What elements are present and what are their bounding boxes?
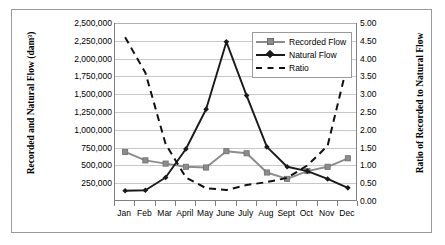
x-axis-tick	[337, 201, 338, 206]
x-axis-tick	[134, 201, 135, 206]
legend-item-ratio[interactable]: Ratio	[256, 61, 348, 74]
y-axis-left-tick-labels: 250,000500,000750,0001,000,0001,250,0001…	[38, 10, 112, 232]
x-axis-tick-label: July	[238, 208, 253, 218]
x-axis-tick-label: May	[197, 208, 213, 218]
y-axis-left-tick-label: 1,250,000	[74, 108, 112, 117]
y-axis-left-tick-label: 1,500,000	[74, 90, 112, 99]
y-axis-left-title: Recorded and Natural Flow (dam³)	[26, 18, 36, 188]
data-point-marker	[122, 188, 128, 194]
y-axis-left-tick-label: 500,000	[81, 161, 112, 170]
data-point-marker	[244, 151, 249, 156]
y-axis-right-tick-label: 0.00	[360, 197, 377, 206]
y-axis-right-tick-label: 3.00	[360, 90, 377, 99]
y-axis-right-tick-label: 2.50	[360, 108, 377, 117]
legend-line	[256, 67, 285, 69]
y-axis-right-tick-label: 0.50	[360, 179, 377, 188]
y-axis-right-tick-label: 5.00	[360, 19, 377, 28]
x-axis-tick	[317, 201, 318, 206]
x-axis-tick-label: Feb	[137, 208, 152, 218]
y-axis-right-tick-label: 4.00	[360, 55, 377, 64]
legend-marker	[267, 38, 274, 45]
data-point-marker	[264, 170, 269, 175]
legend-swatch	[256, 36, 285, 47]
data-point-marker	[224, 149, 229, 154]
x-axis-tick	[114, 201, 115, 206]
x-axis-tick-label: April	[176, 208, 193, 218]
y-axis-right-tick-label: 2.00	[360, 126, 377, 135]
legend-swatch	[256, 62, 285, 73]
legend-swatch	[256, 49, 285, 60]
x-axis-tick-labels: JanFebMarAprilMayJuneJulyAugSeptOctNovDe…	[104, 208, 369, 222]
x-axis-ticks	[114, 201, 357, 207]
legend-item-natural-flow[interactable]: Natural Flow	[256, 48, 348, 61]
y-axis-left-tick-label: 1,750,000	[74, 72, 112, 81]
data-point-marker	[143, 158, 148, 163]
x-axis-tick-label: Oct	[300, 208, 313, 218]
x-axis-tick	[256, 201, 257, 206]
data-point-marker	[224, 39, 230, 45]
x-axis-tick	[195, 201, 196, 206]
data-point-marker	[325, 176, 331, 182]
x-axis-tick	[357, 201, 358, 206]
y-axis-left-tick-label: 2,500,000	[74, 19, 112, 28]
data-point-marker	[163, 161, 168, 166]
x-axis-tick	[296, 201, 297, 206]
legend: Recorded FlowNatural FlowRatio	[252, 32, 352, 78]
y-axis-right-tick-label: 3.50	[360, 72, 377, 81]
y-axis-left-tick-label: 750,000	[81, 144, 112, 153]
y-axis-right-title: Ratio of Recorded to Natural Flow	[415, 18, 425, 188]
x-axis-tick	[175, 201, 176, 206]
x-axis-tick-label: Sept	[277, 208, 295, 218]
y-axis-left-tick-label: 2,000,000	[74, 55, 112, 64]
y-axis-left-tick-label: 2,250,000	[74, 37, 112, 46]
data-point-marker	[183, 164, 188, 169]
y-axis-left-tick-label: 250,000	[81, 179, 112, 188]
x-axis-tick	[215, 201, 216, 206]
y-axis-left-tick-label: 1,000,000	[74, 126, 112, 135]
chart-frame: Recorded and Natural Flow (dam³) 250,000…	[11, 9, 432, 233]
data-point-marker	[345, 185, 351, 191]
x-axis-tick-label: Dec	[339, 208, 354, 218]
x-axis-tick-label: Nov	[319, 208, 334, 218]
legend-item-recorded-flow[interactable]: Recorded Flow	[256, 35, 348, 48]
y-axis-right-tick-label: 1.00	[360, 161, 377, 170]
legend-label: Natural Flow	[289, 50, 337, 60]
y-axis-right-tick-label: 1.50	[360, 144, 377, 153]
data-point-marker	[325, 164, 330, 169]
x-axis-tick	[155, 201, 156, 206]
legend-marker	[266, 50, 274, 58]
x-axis-tick-label: Aug	[258, 208, 273, 218]
data-point-marker	[345, 156, 350, 161]
x-axis-tick	[276, 201, 277, 206]
x-axis-tick-label: June	[216, 208, 234, 218]
data-point-marker	[204, 165, 209, 170]
y-axis-right-tick-labels: 0.000.501.001.502.002.503.003.504.004.50…	[360, 10, 406, 232]
data-point-marker	[244, 93, 250, 99]
x-axis-tick-label: Jan	[117, 208, 131, 218]
data-point-marker	[123, 149, 128, 154]
legend-label: Ratio	[289, 63, 309, 73]
x-axis-tick-label: Mar	[157, 208, 172, 218]
x-axis-tick	[236, 201, 237, 206]
legend-label: Recorded Flow	[289, 37, 346, 47]
y-axis-right-tick-label: 4.50	[360, 37, 377, 46]
